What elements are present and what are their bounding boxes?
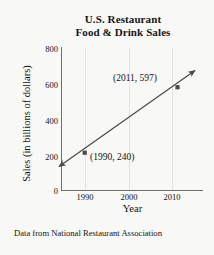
data-point-2011 [175, 85, 179, 89]
chart-figure: U.S. Restaurant Food & Drink Sales 800 6… [0, 0, 214, 255]
series-line [0, 0, 214, 255]
annotation-1990: (1990, 240) [90, 152, 134, 162]
annotation-2011: (2011, 597) [113, 73, 157, 83]
data-point-1990 [83, 151, 87, 155]
data-source-caption: Data from National Restaurant Associatio… [14, 228, 162, 238]
